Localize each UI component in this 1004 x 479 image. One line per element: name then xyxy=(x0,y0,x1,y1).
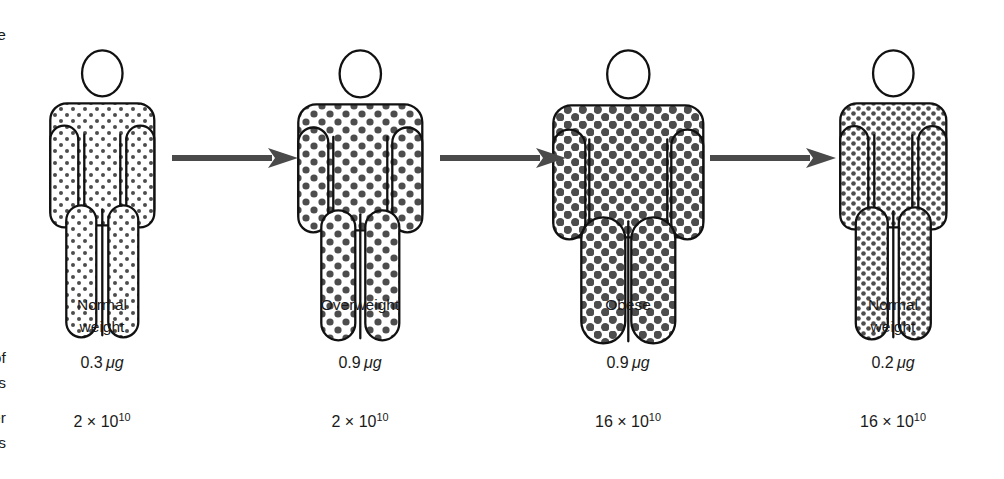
multiplication-sign-3: × xyxy=(617,413,626,430)
fat-amount-unit-2: μg xyxy=(364,354,382,371)
fat-amount-value-3: 0.9 μg xyxy=(538,352,718,374)
fat-amount-number-1: 0.3 xyxy=(80,354,102,371)
row-label-top-fragment: e xyxy=(0,22,6,47)
cell-number-value-2: 2 × 1010 xyxy=(270,411,450,433)
cell-number-base-2: 10 xyxy=(359,413,377,430)
cell-number-value-4: 16 × 1010 xyxy=(803,411,983,433)
column-caption-2: Overweight xyxy=(270,294,450,316)
cell-number-base-1: 10 xyxy=(101,413,119,430)
cell-number-base-3: 10 xyxy=(631,413,649,430)
multiplication-sign-2: × xyxy=(345,413,354,430)
row-label-fat-amount-fragment: of s xyxy=(0,345,6,395)
fat-amount-value-1: 0.3 μg xyxy=(12,352,192,374)
column-caption-3: Obese xyxy=(538,294,718,316)
cell-number-mantissa-1: 2 xyxy=(73,413,82,430)
fat-amount-unit-3: μg xyxy=(632,354,650,371)
multiplication-sign-1: × xyxy=(87,413,96,430)
cell-number-value-1: 2 × 1010 xyxy=(12,411,192,433)
fat-amount-number-4: 0.2 xyxy=(871,354,893,371)
progression-arrow-1 xyxy=(172,146,298,170)
fat-amount-unit-1: μg xyxy=(106,354,124,371)
cell-number-exponent-2: 10 xyxy=(376,411,388,423)
cell-number-exponent-3: 10 xyxy=(649,411,661,423)
row-label-cell-number-fragment: er s xyxy=(0,405,6,455)
multiplication-sign-4: × xyxy=(882,413,891,430)
cell-number-exponent-1: 10 xyxy=(118,411,130,423)
column-caption-1: Normal weight xyxy=(12,294,192,338)
cell-number-value-3: 16 × 1010 xyxy=(538,411,718,433)
fat-amount-value-4: 0.2 μg xyxy=(803,352,983,374)
obesity-progression-figure: e of s er s Normal weight0.3 μg2 × 1010O… xyxy=(0,0,1004,479)
cell-number-mantissa-2: 2 xyxy=(331,413,340,430)
column-caption-4: Normal weight xyxy=(803,294,983,338)
cell-number-base-4: 10 xyxy=(896,413,914,430)
cell-number-mantissa-3: 16 xyxy=(595,413,613,430)
progression-arrow-3 xyxy=(710,146,836,170)
fat-amount-number-2: 0.9 xyxy=(338,354,360,371)
fat-amount-unit-4: μg xyxy=(897,354,915,371)
fat-amount-number-3: 0.9 xyxy=(606,354,628,371)
progression-arrow-2 xyxy=(440,146,566,170)
fat-amount-value-2: 0.9 μg xyxy=(270,352,450,374)
cell-number-mantissa-4: 16 xyxy=(860,413,878,430)
cell-number-exponent-4: 10 xyxy=(914,411,926,423)
